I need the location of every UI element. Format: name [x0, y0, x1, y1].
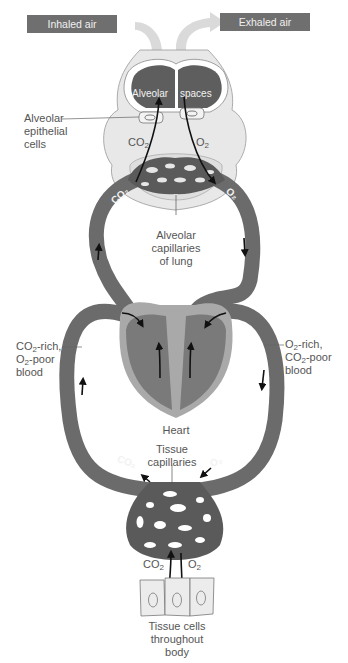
lung-o2-label: O2	[196, 136, 209, 149]
tissue-co2-label: CO2	[143, 558, 164, 571]
alveolar-capillaries-label: Alveolar capillaries of lung	[140, 229, 212, 268]
inhaled-air-label: Inhaled air	[27, 15, 117, 33]
tissue-cells	[140, 578, 214, 616]
tissue-cells-label: Tissue cells throughout body	[130, 620, 224, 659]
alveolar-space-word: Alveolar	[132, 88, 168, 99]
tissue-capillaries-label: Tissue capillaries	[136, 443, 208, 469]
pulmonary-systemic-circulation-diagram	[0, 0, 348, 663]
tissue-capillary-net	[126, 465, 223, 560]
alveolar-epithelial-cells-label: Alveolar epithelial cells	[24, 112, 67, 151]
lung-co2-label: CO2	[128, 136, 149, 149]
co2-rich-blood-label: CO2-rich, O2-poor blood	[16, 340, 61, 379]
heart	[119, 302, 232, 418]
heart-label: Heart	[150, 424, 202, 437]
tissue-o2-label: O2	[188, 558, 201, 571]
o2-rich-blood-label: O2-rich, CO2-poor blood	[285, 338, 332, 377]
exhaled-air-label: Exhaled air	[220, 13, 310, 31]
spaces-word: spaces	[180, 88, 212, 99]
